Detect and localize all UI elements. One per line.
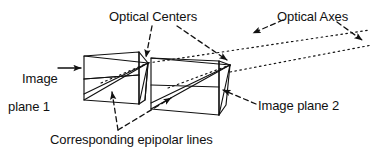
epipolar-geometry-figure: Optical Centers Optical Axes Image plane…	[0, 0, 376, 158]
leader-optical-axis-2	[337, 22, 362, 40]
frustum-1	[84, 52, 148, 104]
optical-axis-2	[230, 45, 372, 72]
optical-axis-2-inner	[168, 65, 230, 88]
label-image-plane-2: Image plane 2	[258, 99, 339, 113]
epipolar-line-2	[151, 65, 230, 103]
leader-image-plane-2	[223, 90, 256, 104]
label-optical-axes: Optical Axes	[277, 10, 348, 24]
label-image-plane-1-line2: plane 1	[8, 100, 58, 114]
label-image-plane-1: Image plane 1	[8, 58, 58, 142]
label-optical-centers: Optical Centers	[109, 10, 197, 24]
frustum-2	[151, 58, 230, 115]
label-image-plane-1-line1: Image	[22, 71, 58, 86]
leader-epipolar-1	[112, 92, 118, 130]
label-corresponding-epipolar-lines: Corresponding epipolar lines	[50, 133, 213, 147]
optical-axes-group	[101, 30, 372, 88]
leader-optical-center-1	[146, 26, 152, 57]
leader-lines	[112, 20, 362, 130]
optical-axis-1	[148, 30, 370, 63]
